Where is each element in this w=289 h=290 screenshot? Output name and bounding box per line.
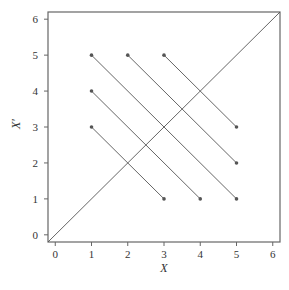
segment-endpoint-marker bbox=[162, 53, 166, 57]
y-tick-label: 1 bbox=[33, 193, 39, 205]
x-tick-label: 5 bbox=[234, 248, 240, 260]
segment-endpoint-marker bbox=[90, 89, 94, 93]
x-tick-label: 6 bbox=[270, 248, 276, 260]
segment-endpoint-marker bbox=[162, 197, 166, 201]
y-tick-label: 4 bbox=[33, 85, 39, 97]
y-tick-label: 5 bbox=[33, 49, 39, 61]
segment-endpoint-marker bbox=[90, 53, 94, 57]
segment-endpoint-marker bbox=[235, 161, 239, 165]
x-axis: 0123456 bbox=[53, 242, 277, 260]
x-tick-label: 1 bbox=[89, 248, 95, 260]
y-tick-label: 0 bbox=[33, 229, 39, 241]
y-tick-label: 6 bbox=[33, 13, 39, 25]
x-tick-label: 3 bbox=[161, 248, 167, 260]
y-tick-label: 2 bbox=[33, 157, 39, 169]
chart: 0123456 0123456 X X′ bbox=[0, 0, 289, 290]
y-axis: 0123456 bbox=[33, 13, 49, 241]
x-tick-label: 0 bbox=[53, 248, 59, 260]
segment-endpoint-marker bbox=[235, 197, 239, 201]
x-tick-label: 2 bbox=[125, 248, 131, 260]
segment-endpoint-marker bbox=[126, 53, 130, 57]
plot-area bbox=[48, 12, 280, 242]
segment-endpoint-marker bbox=[235, 125, 239, 129]
segment-endpoint-marker bbox=[198, 197, 202, 201]
y-axis-label: X′ bbox=[9, 119, 23, 130]
segment-endpoint-marker bbox=[90, 125, 94, 129]
x-tick-label: 4 bbox=[198, 248, 204, 260]
x-axis-label: X bbox=[159, 261, 168, 275]
y-tick-label: 3 bbox=[33, 121, 39, 133]
